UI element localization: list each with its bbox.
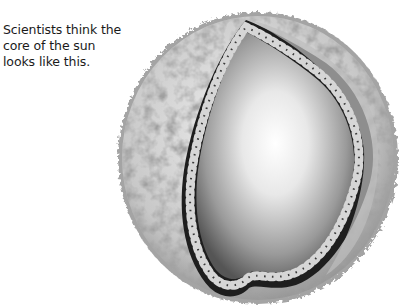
sun-cutaway-illustration bbox=[0, 0, 418, 306]
